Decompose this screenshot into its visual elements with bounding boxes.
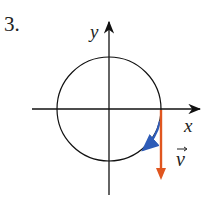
velocity-label: v [176, 148, 185, 170]
x-axis-label: x [183, 115, 193, 136]
y-axis-label: y [88, 21, 99, 42]
velocity-arrowhead [156, 168, 166, 180]
circular-motion-diagram: y x v [0, 0, 211, 205]
